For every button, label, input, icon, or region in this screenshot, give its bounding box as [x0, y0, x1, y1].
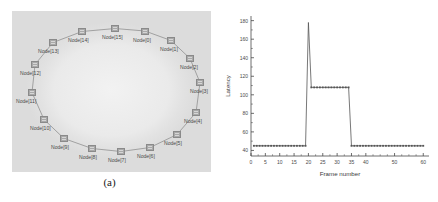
- node-icon: [192, 109, 200, 116]
- topology-node-5[interactable]: [173, 131, 181, 138]
- x-tick-label: 0: [250, 159, 253, 165]
- topology-node-label: Node[3]: [190, 88, 208, 94]
- topology-node-label: Node[9]: [51, 144, 69, 150]
- node-icon: [146, 144, 154, 151]
- data-point: [330, 86, 332, 88]
- data-point: [353, 145, 355, 147]
- y-tick-label: 40: [242, 147, 248, 153]
- x-tick-label: 15: [291, 159, 297, 165]
- node-icon: [111, 25, 119, 32]
- data-point: [282, 145, 284, 147]
- data-point: [316, 86, 318, 88]
- data-point: [302, 145, 304, 147]
- data-point: [345, 86, 347, 88]
- data-point: [256, 145, 258, 147]
- x-tick-label: 50: [392, 159, 398, 165]
- panel-a-caption: (a): [0, 176, 219, 188]
- topology-node-13[interactable]: [49, 39, 57, 46]
- panel-a-ring-topology: Node[15]Node[0]Node[1]Node[2]Node[3]Node…: [0, 0, 219, 202]
- data-point: [405, 145, 407, 147]
- data-point: [388, 145, 390, 147]
- data-point: [394, 145, 396, 147]
- data-point: [348, 86, 350, 88]
- topology-node-label: Node[7]: [108, 157, 126, 163]
- topology-node-label: Node[14]: [68, 37, 89, 43]
- topology-node-label: Node[2]: [180, 64, 198, 70]
- data-point: [419, 145, 421, 147]
- data-point: [399, 145, 401, 147]
- data-point: [305, 145, 307, 147]
- y-tick-label: 80: [242, 110, 248, 116]
- node-icon: [31, 61, 39, 68]
- data-point: [296, 145, 298, 147]
- topology-node-label: Node[15]: [102, 34, 123, 40]
- data-point: [273, 145, 275, 147]
- data-point: [313, 86, 315, 88]
- panel-b-latency-chart: 4060801001201401601800510152025303540506…: [219, 0, 438, 202]
- topology-node-label: Node[13]: [38, 48, 59, 54]
- data-point: [359, 145, 361, 147]
- topology-node-label: Node[12]: [20, 70, 41, 76]
- topology-node-10[interactable]: [40, 116, 48, 123]
- topology-node-15[interactable]: [111, 25, 119, 32]
- node-icon: [40, 116, 48, 123]
- data-point: [262, 145, 264, 147]
- y-tick-label: 60: [242, 129, 248, 135]
- x-tick-label: 30: [334, 159, 340, 165]
- data-point: [376, 145, 378, 147]
- x-tick-label: 5: [264, 159, 267, 165]
- topology-node-3[interactable]: [196, 79, 204, 86]
- topology-node-14[interactable]: [78, 28, 86, 35]
- data-point: [299, 145, 301, 147]
- data-point: [253, 145, 255, 147]
- topology-node-label: Node[1]: [160, 46, 178, 52]
- node-icon: [117, 148, 125, 155]
- data-point: [365, 145, 367, 147]
- data-point: [287, 145, 289, 147]
- data-point: [362, 145, 364, 147]
- data-point: [411, 145, 413, 147]
- topology-node-6[interactable]: [146, 144, 154, 151]
- data-point: [356, 145, 358, 147]
- topology-node-1[interactable]: [167, 37, 175, 44]
- topology-node-label: Node[4]: [184, 118, 202, 124]
- topology-node-0[interactable]: [141, 28, 149, 35]
- data-point: [322, 86, 324, 88]
- x-tick-label: 35: [349, 159, 355, 165]
- figure-root: Node[15]Node[0]Node[1]Node[2]Node[3]Node…: [0, 0, 438, 202]
- data-point: [293, 145, 295, 147]
- data-point: [374, 145, 376, 147]
- node-icon: [173, 131, 181, 138]
- data-point: [385, 145, 387, 147]
- data-point: [408, 145, 410, 147]
- data-point: [270, 145, 272, 147]
- node-icon: [28, 89, 36, 96]
- x-tick-label: 25: [320, 159, 326, 165]
- node-icon: [186, 55, 194, 62]
- node-icon: [141, 28, 149, 35]
- data-point: [382, 145, 384, 147]
- data-point: [397, 145, 399, 147]
- data-point: [325, 86, 327, 88]
- data-point: [328, 86, 330, 88]
- topology-node-label: Node[0]: [133, 37, 151, 43]
- x-tick-label: 40: [363, 159, 369, 165]
- y-tick-label: 180: [240, 18, 249, 24]
- topology-canvas: Node[15]Node[0]Node[1]Node[2]Node[3]Node…: [12, 11, 211, 172]
- data-point: [422, 145, 424, 147]
- data-point: [264, 145, 266, 147]
- y-tick-label: 140: [240, 55, 249, 61]
- topology-node-4[interactable]: [192, 109, 200, 116]
- topology-node-8[interactable]: [88, 145, 96, 152]
- topology-node-12[interactable]: [31, 61, 39, 68]
- topology-node-9[interactable]: [60, 135, 68, 142]
- latency-series-line: [254, 22, 423, 145]
- node-icon: [88, 145, 96, 152]
- topology-node-11[interactable]: [28, 89, 36, 96]
- data-point: [371, 145, 373, 147]
- topology-node-label: Node[6]: [137, 153, 155, 159]
- y-tick-label: 160: [240, 36, 249, 42]
- data-point: [259, 145, 261, 147]
- topology-node-7[interactable]: [117, 148, 125, 155]
- topology-node-2[interactable]: [186, 55, 194, 62]
